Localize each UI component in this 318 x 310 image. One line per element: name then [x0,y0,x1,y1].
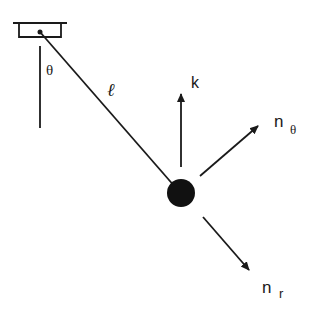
n-r-subscript: r [279,286,284,301]
pendulum-diagram: θ ℓ k n θ n r [0,0,318,310]
theta-label: θ [46,62,53,78]
k-label: k [191,74,200,91]
pendulum-bob [167,179,195,207]
n-r-vector-arrow [203,217,249,270]
length-label: ℓ [107,80,115,100]
n-theta-label: n [274,112,283,131]
n-theta-subscript: θ [290,122,296,137]
n-theta-vector-arrow [200,126,258,176]
n-r-label: n [262,278,271,297]
pendulum-string [40,32,176,188]
